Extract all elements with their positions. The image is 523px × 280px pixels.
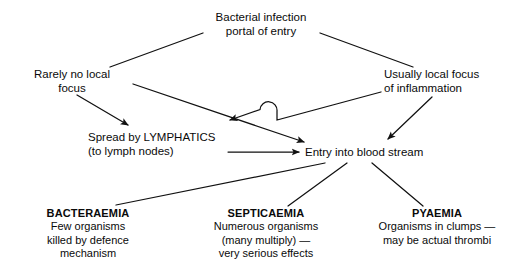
node-entry-into-blood-stream: Entry into blood stream	[305, 145, 423, 159]
bacterial-infection-line-1: Bacterial infection	[216, 10, 307, 24]
edge-usually-to-lymphatics	[230, 92, 381, 120]
edge-blood-to-bacteraemia	[116, 163, 325, 205]
flowchart-diagram: Bacterial infection portal of entry Rare…	[0, 0, 523, 280]
edge-blood-to-septicaemia	[288, 163, 347, 206]
node-rarely-no-local-focus: Rarely no local focus	[34, 67, 110, 95]
entry-into-blood-stream-line-1: Entry into blood stream	[305, 145, 423, 159]
rarely-no-local-focus-line-1: Rarely no local	[34, 67, 110, 81]
pyaemia-heading: PYAEMIA	[379, 207, 496, 220]
septicaemia-line-3: very serious effects	[214, 247, 319, 260]
edge-root-to-usually	[320, 33, 413, 67]
edge-blood-to-pyaemia	[372, 163, 423, 206]
node-spread-by-lymphatics: Spread by LYMPHATICS (to lymph nodes)	[88, 130, 215, 158]
septicaemia-line-2: (many multiply) —	[214, 234, 319, 247]
pyaemia-line-2: may be actual thrombi	[379, 234, 496, 247]
edge-usually-to-blood	[388, 97, 432, 139]
bacteraemia-line-3: mechanism	[47, 247, 130, 260]
node-bacterial-infection: Bacterial infection portal of entry	[216, 10, 307, 38]
pyaemia-line-1: Organisms in clumps —	[379, 220, 496, 233]
bacteraemia-line-1: Few organisms	[47, 220, 130, 233]
edge-root-to-rarely	[110, 33, 203, 67]
node-usually-local-focus: Usually local focus of inflammation	[384, 67, 479, 95]
spread-by-lymphatics-line-1: Spread by LYMPHATICS	[88, 130, 215, 144]
septicaemia-line-1: Numerous organisms	[214, 220, 319, 233]
node-bacteraemia: BACTERAEMIA Few organisms killed by defe…	[47, 207, 130, 261]
bacteraemia-heading: BACTERAEMIA	[47, 207, 130, 220]
node-pyaemia: PYAEMIA Organisms in clumps — may be act…	[379, 207, 496, 247]
edge-rarely-to-lymphatics	[77, 95, 128, 125]
usually-local-focus-line-1: Usually local focus	[384, 67, 479, 81]
septicaemia-heading: SEPTICAEMIA	[214, 207, 319, 220]
usually-local-focus-line-2: of inflammation	[384, 81, 479, 95]
spread-by-lymphatics-line-2: (to lymph nodes)	[88, 144, 215, 158]
bacterial-infection-line-2: portal of entry	[216, 24, 307, 38]
node-septicaemia: SEPTICAEMIA Numerous organisms (many mul…	[214, 207, 319, 261]
rarely-no-local-focus-line-2: focus	[34, 81, 110, 95]
bacteraemia-line-2: killed by defence	[47, 234, 130, 247]
